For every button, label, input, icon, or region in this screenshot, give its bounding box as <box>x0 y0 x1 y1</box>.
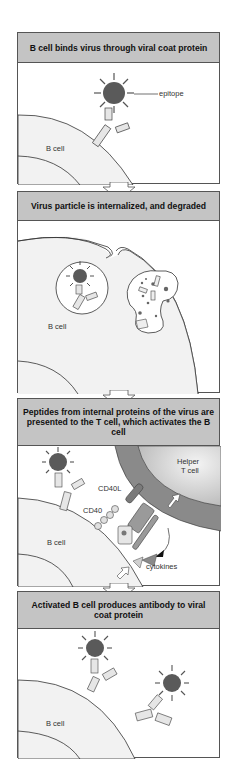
panel-4-body: B cell <box>17 628 220 758</box>
virus-icon <box>94 73 134 113</box>
panel-1-header: B cell binds virus through viral coat pr… <box>17 32 220 63</box>
helper-t-cell-label-1: Helper <box>177 457 199 466</box>
b-cell-label: B cell <box>46 719 64 728</box>
b-cell-label: B cell <box>46 144 64 153</box>
b-cell-label: B cell <box>48 322 66 331</box>
panel-3-header: Peptides from internal proteins of the v… <box>17 398 220 446</box>
cd40-label: CD40 <box>83 506 102 515</box>
antibody-icon <box>92 108 129 147</box>
cd40l-label: CD40L <box>98 484 121 493</box>
virus-icon <box>42 447 74 473</box>
antibody-icon <box>55 473 85 511</box>
b-cell-label: B cell <box>47 538 65 547</box>
panel-1-illustration <box>18 63 221 185</box>
panel-4-illustration <box>18 629 221 759</box>
virus-icon <box>155 665 189 701</box>
antibody-icon <box>135 695 172 726</box>
antibody-icon <box>87 659 117 692</box>
peptide <box>122 531 127 536</box>
panel-2-body: B cell <box>17 220 220 393</box>
cytokine-icon <box>133 557 143 568</box>
panel-3-body: Helper T cell CD40L CD40 B cell cytokine… <box>17 445 220 586</box>
panel-2-illustration <box>18 221 221 394</box>
helper-t-cell-label-2: T cell <box>181 466 199 475</box>
virus-icon <box>78 631 112 660</box>
epitope-label: epitope <box>159 89 184 98</box>
panel-1-body: epitope B cell <box>17 62 220 184</box>
cytokines-label: cytokines <box>146 562 177 571</box>
panel-2-header: Virus particle is internalized, and degr… <box>17 191 220 221</box>
panel-4-header: Activated B cell produces antibody to vi… <box>17 591 220 629</box>
